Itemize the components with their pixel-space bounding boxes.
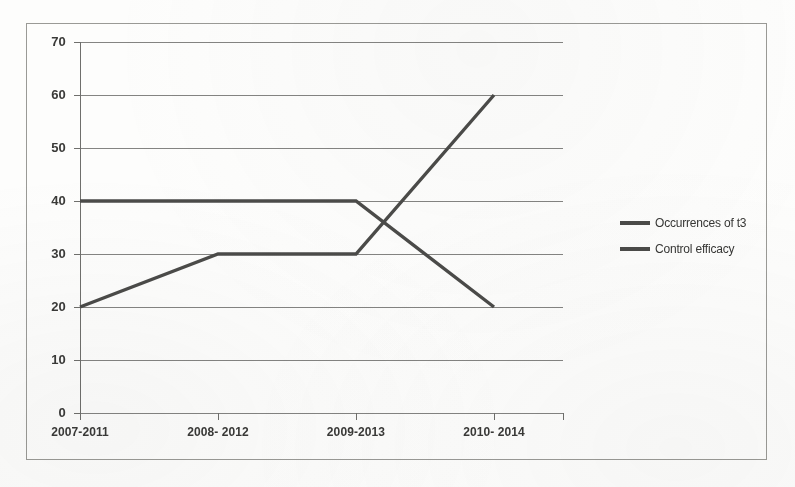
x-tick-mark (218, 413, 219, 420)
legend-item-occurrences-of-t3: Occurrences of t3 (620, 210, 770, 236)
y-axis-tick-label: 50 (26, 140, 66, 155)
gridline (80, 413, 563, 414)
y-axis-tick-label: 10 (26, 352, 66, 367)
y-axis-tick-label: 60 (26, 87, 66, 102)
y-axis-tick-label: 0 (26, 405, 66, 420)
x-tick-mark (80, 413, 81, 420)
x-tick-mark (494, 413, 495, 420)
series-lines (80, 42, 563, 413)
x-axis-tick-label: 2009-2013 (291, 425, 421, 439)
legend-label: Control efficacy (655, 242, 734, 256)
legend-item-control-efficacy: Control efficacy (620, 236, 770, 262)
chart-page: 010203040506070 2007-20112008- 20122009-… (0, 0, 795, 487)
chart-legend: Occurrences of t3 Control efficacy (620, 210, 770, 262)
y-axis-tick-label: 20 (26, 299, 66, 314)
x-tick-mark (356, 413, 357, 420)
plot-area (80, 42, 563, 413)
legend-label: Occurrences of t3 (655, 216, 746, 230)
legend-line-swatch-icon (620, 221, 650, 225)
x-tick-mark (563, 413, 564, 420)
y-axis-tick-label: 40 (26, 193, 66, 208)
y-axis-tick-label: 30 (26, 246, 66, 261)
x-axis-tick-label: 2007-2011 (15, 425, 145, 439)
x-axis-tick-label: 2008- 2012 (153, 425, 283, 439)
legend-line-swatch-icon (620, 247, 650, 251)
x-axis-tick-label: 2010- 2014 (429, 425, 559, 439)
y-axis-tick-label: 70 (26, 34, 66, 49)
